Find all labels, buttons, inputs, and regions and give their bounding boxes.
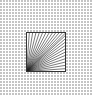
radial-lines-icon [26, 32, 66, 72]
radial-lines-square [26, 32, 66, 72]
